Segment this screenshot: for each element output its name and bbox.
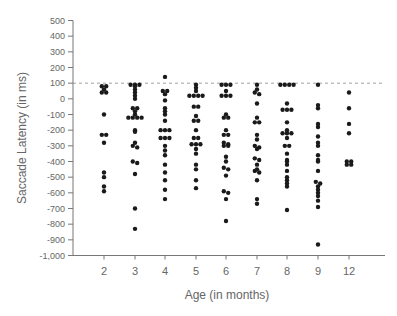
data-point bbox=[139, 115, 143, 119]
data-point bbox=[226, 191, 230, 195]
data-point bbox=[163, 98, 167, 102]
x-tick-label: 8 bbox=[284, 265, 290, 277]
data-point bbox=[316, 134, 320, 138]
data-point bbox=[316, 144, 320, 148]
data-point bbox=[133, 227, 137, 231]
data-point bbox=[200, 94, 204, 98]
data-point bbox=[255, 83, 259, 87]
data-point bbox=[287, 144, 291, 148]
y-tick-label: 400 bbox=[50, 31, 65, 41]
data-point bbox=[133, 97, 137, 101]
data-point bbox=[285, 162, 289, 166]
data-point bbox=[198, 142, 202, 146]
data-point bbox=[278, 83, 282, 87]
data-point bbox=[347, 131, 351, 135]
data-point bbox=[224, 219, 228, 223]
data-point bbox=[257, 158, 261, 162]
data-point bbox=[316, 106, 320, 110]
y-axis-title: Saccade Latency (in ms) bbox=[15, 72, 29, 204]
data-point bbox=[316, 125, 320, 129]
data-point bbox=[285, 108, 289, 112]
data-point bbox=[126, 115, 130, 119]
data-point bbox=[128, 83, 132, 87]
data-point bbox=[189, 142, 193, 146]
data-point bbox=[255, 115, 259, 119]
data-point bbox=[102, 175, 106, 179]
data-point bbox=[222, 144, 226, 148]
y-tick-label: -1,000 bbox=[39, 251, 65, 261]
data-point bbox=[287, 83, 291, 87]
data-point bbox=[316, 205, 320, 209]
x-axis: 2345678912 bbox=[73, 256, 385, 277]
data-point bbox=[167, 136, 171, 140]
data-point bbox=[285, 136, 289, 140]
data-point bbox=[222, 133, 226, 137]
data-point bbox=[194, 128, 198, 132]
y-tick-label: 100 bbox=[50, 78, 65, 88]
data-point bbox=[102, 112, 106, 116]
data-point bbox=[224, 128, 228, 132]
data-point bbox=[224, 83, 228, 87]
data-point bbox=[163, 128, 167, 132]
data-point bbox=[163, 144, 167, 148]
data-point bbox=[137, 83, 141, 87]
data-point bbox=[192, 119, 196, 123]
data-point bbox=[135, 161, 139, 165]
data-point bbox=[347, 90, 351, 94]
data-point bbox=[222, 166, 226, 170]
data-point bbox=[316, 198, 320, 202]
data-point bbox=[102, 184, 106, 188]
data-point bbox=[228, 94, 232, 98]
y-axis: 5004003002001000-100-200-300-400-500-600… bbox=[39, 16, 73, 261]
data-point bbox=[289, 108, 293, 112]
data-point bbox=[285, 169, 289, 173]
x-tick-label: 3 bbox=[132, 265, 138, 277]
data-point bbox=[131, 144, 135, 148]
y-tick-label: -200 bbox=[47, 125, 65, 135]
data-point bbox=[194, 89, 198, 93]
data-point bbox=[194, 142, 198, 146]
y-tick-label: -300 bbox=[47, 141, 65, 151]
data-point bbox=[196, 136, 200, 140]
data-point bbox=[349, 162, 353, 166]
data-point bbox=[280, 108, 284, 112]
data-point bbox=[194, 147, 198, 151]
data-point bbox=[163, 75, 167, 79]
data-point bbox=[314, 180, 318, 184]
x-tick-label: 4 bbox=[162, 265, 168, 277]
data-point bbox=[104, 133, 108, 137]
data-point bbox=[280, 131, 284, 135]
data-point bbox=[163, 148, 167, 152]
y-tick-label: -700 bbox=[47, 204, 65, 214]
y-tick-label: 500 bbox=[50, 16, 65, 26]
data-point bbox=[196, 119, 200, 123]
data-point bbox=[257, 92, 261, 96]
data-point bbox=[316, 83, 320, 87]
x-tick-label: 6 bbox=[223, 265, 229, 277]
y-tick-label: 200 bbox=[50, 63, 65, 73]
y-tick-label: -900 bbox=[47, 235, 65, 245]
data-point bbox=[283, 144, 287, 148]
data-point bbox=[226, 167, 230, 171]
data-point bbox=[102, 170, 106, 174]
data-point bbox=[347, 122, 351, 126]
data-points bbox=[100, 75, 354, 247]
data-point bbox=[255, 101, 259, 105]
x-tick-label: 9 bbox=[315, 265, 321, 277]
data-point bbox=[285, 120, 289, 124]
data-point bbox=[100, 133, 104, 137]
data-point bbox=[285, 208, 289, 212]
data-point bbox=[316, 159, 320, 163]
data-point bbox=[222, 189, 226, 193]
y-tick-label: -600 bbox=[47, 188, 65, 198]
data-point bbox=[253, 90, 257, 94]
data-point bbox=[257, 120, 261, 124]
y-tick-label: -800 bbox=[47, 219, 65, 229]
data-point bbox=[316, 242, 320, 246]
data-point bbox=[226, 115, 230, 119]
data-point bbox=[196, 94, 200, 98]
y-tick-label: 0 bbox=[60, 94, 65, 104]
data-point bbox=[255, 133, 259, 137]
data-point bbox=[163, 92, 167, 96]
data-point bbox=[133, 172, 137, 176]
